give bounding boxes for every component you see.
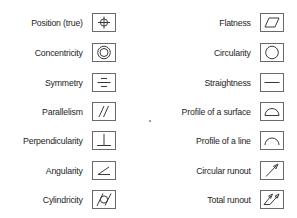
symbol-label: Circular runout — [150, 165, 260, 176]
flatness-icon — [260, 13, 284, 32]
symmetry-icon — [92, 73, 116, 92]
angularity-icon — [92, 161, 116, 180]
position-icon — [92, 13, 116, 32]
symbol-label: Concentricity — [7, 47, 92, 58]
circular-runout-icon — [260, 161, 284, 180]
symbol-row-position: Position (true) — [0, 12, 116, 32]
symbol-label: Circularity — [150, 47, 260, 58]
symbol-row-straightness: Straightness — [140, 72, 284, 92]
symbol-row-cylindricity: Cylindricity — [0, 189, 116, 209]
perpendicularity-icon — [92, 131, 116, 150]
circularity-icon — [260, 43, 284, 62]
symbol-label: Straightness — [150, 77, 260, 88]
total-runout-icon — [260, 190, 284, 209]
symbol-label: Profile of a line — [150, 135, 260, 146]
profile-line-icon — [260, 131, 284, 150]
symbol-row-angularity: Angularity — [0, 160, 116, 180]
symbol-row-concentricity: Concentricity — [0, 42, 116, 62]
straightness-icon — [260, 73, 284, 92]
cylindricity-icon — [92, 190, 116, 209]
symbol-label: Angularity — [7, 165, 92, 176]
concentricity-icon — [92, 43, 116, 62]
symbol-row-profile-surface: Profile of a surface — [140, 101, 284, 121]
symbol-label: Parallelism — [7, 106, 92, 117]
profile-surface-icon — [260, 102, 284, 121]
parallelism-icon — [92, 102, 116, 121]
symbol-label: Profile of a surface — [150, 106, 260, 117]
symbol-label: Cylindricity — [7, 194, 92, 205]
symbol-label: Perpendicularity — [7, 135, 92, 146]
symbol-row-symmetry: Symmetry — [0, 72, 116, 92]
symbol-label: Position (true) — [7, 17, 92, 28]
symbol-row-profile-line: Profile of a line — [140, 130, 284, 150]
symbol-label: Symmetry — [7, 77, 92, 88]
symbol-label: Total runout — [150, 194, 260, 205]
symbol-row-circular-runout: Circular runout — [140, 160, 284, 180]
symbol-row-circularity: Circularity — [140, 42, 284, 62]
symbol-row-parallelism: Parallelism — [0, 101, 116, 121]
symbol-row-perpendicularity: Perpendicularity — [0, 130, 116, 150]
symbol-row-flatness: Flatness — [140, 12, 284, 32]
symbol-row-total-runout: Total runout — [140, 189, 284, 209]
symbol-label: Flatness — [150, 17, 260, 28]
